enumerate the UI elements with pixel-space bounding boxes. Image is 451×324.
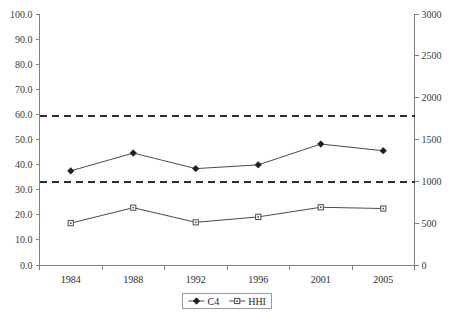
y-axis-left-tick-label: 90.0 [15, 34, 33, 45]
y-axis-right-tick-label: 500 [422, 218, 437, 229]
y-axis-left-tick-label: 60.0 [15, 109, 33, 120]
x-axis-tick-label: 2001 [311, 274, 331, 285]
series-line-C4 [71, 144, 384, 171]
y-axis-left-tick-label: 100.0 [10, 9, 33, 20]
legend-label-C4: C4 [208, 296, 220, 307]
series-HHI [68, 205, 386, 226]
legend-label-HHI: HHI [248, 296, 266, 307]
x-axis-tick-label: 1984 [61, 274, 81, 285]
series-line-HHI [71, 207, 384, 223]
data-point-C4 [130, 150, 136, 156]
legend-marker-HHI-center [236, 300, 238, 302]
data-point-C4 [193, 165, 199, 171]
x-axis-tick-label: 2005 [373, 274, 393, 285]
line-chart: 0.010.020.030.040.050.060.070.080.090.01… [0, 0, 451, 324]
data-point-HHI-center [70, 222, 72, 224]
chart-container: 0.010.020.030.040.050.060.070.080.090.01… [0, 0, 451, 324]
y-axis-right-tick-label: 1000 [422, 176, 442, 187]
data-point-HHI-center [132, 207, 134, 209]
data-point-C4 [380, 148, 386, 154]
y-axis-right-tick-label: 3000 [422, 9, 442, 20]
y-axis-left-tick-label: 50.0 [15, 134, 33, 145]
y-axis-right-tick-label: 2000 [422, 92, 442, 103]
data-point-C4 [318, 141, 324, 147]
y-axis-right-tick-label: 0 [422, 260, 427, 271]
data-point-HHI-center [195, 222, 197, 224]
x-axis-tick-label: 1992 [186, 274, 206, 285]
y-axis-left-tick-label: 80.0 [15, 59, 33, 70]
data-point-C4 [68, 168, 74, 174]
y-axis-right-tick-label: 2500 [422, 50, 442, 61]
y-axis-left-tick-label: 70.0 [15, 84, 33, 95]
y-axis-left-tick-label: 40.0 [15, 159, 33, 170]
data-point-HHI-center [382, 208, 384, 210]
data-point-HHI-center [257, 216, 259, 218]
x-axis-tick-label: 1988 [123, 274, 143, 285]
series-C4 [68, 141, 387, 174]
y-axis-left-tick-label: 10.0 [15, 234, 33, 245]
y-axis-left-tick-label: 0.0 [20, 260, 33, 271]
x-axis-tick-label: 1996 [248, 274, 268, 285]
data-point-HHI-center [320, 206, 322, 208]
y-axis-left-tick-label: 30.0 [15, 184, 33, 195]
y-axis-left-tick-label: 20.0 [15, 209, 33, 220]
legend: C4HHI [183, 294, 272, 309]
data-point-C4 [255, 162, 261, 168]
y-axis-right-tick-label: 1500 [422, 134, 442, 145]
